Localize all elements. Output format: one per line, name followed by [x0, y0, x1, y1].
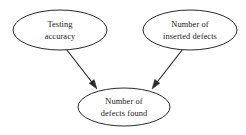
node-testing-accuracy[interactable]: Testing accuracy: [13, 10, 107, 50]
node-inserted-defects[interactable]: Number of inserted defects: [143, 10, 237, 50]
node-label-line1: Number of: [171, 20, 209, 29]
edge-line: [63, 45, 95, 86]
node-label-line2: inserted defects: [163, 32, 217, 41]
node-defects-found[interactable]: Number of defects found: [78, 88, 170, 126]
node-label-line1: Testing: [47, 20, 73, 29]
edge-line: [155, 45, 187, 86]
node-label-line2: defects found: [101, 109, 148, 118]
edge-inserted-defects-to-defects-found: [152, 45, 186, 89]
node-label-line1: Number of: [105, 97, 143, 106]
node-shape-ellipse: [13, 10, 107, 50]
node-label-line2: accuracy: [45, 32, 76, 41]
node-shape-ellipse: [78, 88, 170, 126]
diagram-canvas: Testing accuracy Number of inserted defe…: [0, 0, 246, 135]
diagram-svg: Testing accuracy Number of inserted defe…: [0, 0, 246, 135]
node-shape-ellipse: [143, 10, 237, 50]
edge-accuracy-to-defects-found: [63, 45, 97, 89]
